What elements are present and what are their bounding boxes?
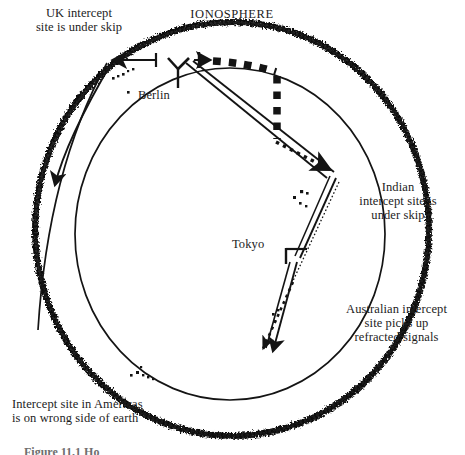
refracted-dotted-ray: [276, 142, 331, 170]
city-label-tokyo: Tokyo: [232, 237, 264, 251]
annotation-indian-intercept: Indian intercept site is under skip: [336, 180, 460, 222]
annotation-australian-intercept: Australian intercept site picks up refra…: [330, 302, 463, 344]
ionosphere-label: IONOSPHERE: [172, 7, 292, 21]
indian-thin-dotted-line: [292, 182, 339, 283]
tokyo-to-australia-rays: [263, 262, 297, 351]
annotation-uk-intercept: UK intercept site is under skip: [9, 6, 149, 34]
americas-signal-speckles: [130, 366, 154, 380]
annotation-americas-intercept: Intercept site in Americas is on wrong s…: [12, 397, 227, 425]
figure-caption: Figure 11.1 Ho: [24, 445, 454, 455]
uk-signal-speckles: [112, 68, 134, 94]
indian-to-tokyo-ray: [295, 176, 336, 258]
uk-skip-arrow: [113, 53, 156, 67]
berlin-antenna-icon: [168, 58, 189, 88]
ionosphere-bounce-arrowhead: [194, 52, 210, 68]
earth-outline: [75, 68, 385, 400]
figure-canvas: IONOSPHERE UK intercept site is under sk…: [0, 0, 465, 455]
city-label-berlin: Berlin: [138, 88, 170, 102]
ionosphere-ring: [35, 22, 431, 438]
propagation-diagram: [0, 0, 465, 455]
indian-signal-speckles: [293, 190, 309, 207]
